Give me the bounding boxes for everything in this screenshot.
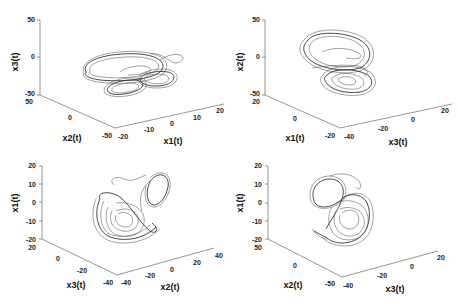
x-axis-label: x1(t) [163,136,182,146]
depth-tick: 0 [68,114,72,121]
x-tick: 20 [441,107,449,114]
z-axis-label: x3(t) [10,52,20,71]
depth-tick: 0 [56,255,60,262]
x-tick: 0 [410,263,414,270]
depth-axis-label: x1(t) [285,133,304,143]
plot-x1-x2-x3: 50 0 -50 50 0 -50 -20 -10 0 10 20 x3(t) … [0,0,230,151]
z-tick: 0 [258,199,262,206]
x-axis-label: x2(t) [160,282,179,292]
plot-canvas: 20 10 0 -10 -20 50 0 -50 -40 -20 0 20 x1… [230,151,460,302]
z-tick: 0 [32,199,36,206]
axes [262,20,452,128]
plot-x2-x3-x1: 20 10 0 -10 -20 20 0 -20 -40 -40 -20 0 2… [0,151,230,302]
trajectory [300,30,376,95]
depth-tick: -50 [325,280,335,287]
x-tick: 0 [170,266,174,273]
z-tick: 10 [28,181,36,188]
z-tick: 10 [254,181,262,188]
x-axis-label: x3(t) [388,137,407,147]
z-tick: 0 [31,53,35,60]
x-tick: 20 [437,254,445,261]
z-tick: -20 [252,236,262,243]
x-axis-label: x3(t) [385,284,404,294]
plot-canvas: 20 10 0 -10 -20 20 0 -20 -40 -40 -20 0 2… [0,151,230,302]
axes [37,20,224,128]
x-tick: 40 [215,252,223,259]
depth-tick: 20 [252,98,260,105]
plot-x3-x1-x2: 50 0 -50 20 0 -20 -40 -20 0 20 x2(t) x1(… [230,0,460,151]
z-axis-label: x1(t) [10,193,20,212]
x-tick: 10 [193,114,201,121]
x-tick: -20 [145,272,155,279]
x-tick: -40 [344,133,354,140]
depth-tick: -20 [325,132,335,139]
axes [265,166,438,277]
x-tick: -20 [377,272,387,279]
trajectory [93,173,170,243]
x-tick: 20 [216,107,224,114]
plot-canvas: 50 0 -50 20 0 -20 -40 -20 0 20 x2(t) x1(… [230,0,460,151]
x-tick: 20 [193,259,201,266]
x-tick: -10 [144,126,154,133]
x-tick: -20 [118,133,128,140]
x-tick: 0 [411,116,415,123]
z-tick: -20 [26,236,36,243]
z-tick: -10 [26,218,36,225]
depth-tick: 20 [28,244,36,251]
plot-x3-x2-x1: 20 10 0 -10 -20 50 0 -50 -40 -20 0 20 x1… [230,151,460,302]
depth-tick: -50 [102,132,112,139]
trajectory [310,174,373,246]
x-tick: -40 [121,279,131,286]
depth-tick: -40 [103,279,113,286]
x-tick: 0 [170,120,174,127]
trajectory [83,51,183,96]
depth-tick: 0 [293,262,297,269]
z-tick: -10 [252,218,262,225]
x-tick: -20 [378,125,388,132]
depth-axis-label: x2(t) [62,133,81,143]
plot-canvas: 50 0 -50 50 0 -50 -20 -10 0 10 20 x3(t) … [0,0,230,151]
z-tick: 20 [254,162,262,169]
z-tick: 0 [256,53,260,60]
depth-tick: 0 [293,115,297,122]
z-tick: -50 [25,90,35,97]
depth-tick: -20 [77,267,87,274]
z-axis-label: x2(t) [235,52,245,71]
z-tick: 50 [27,16,35,23]
z-tick: -50 [250,90,260,97]
depth-tick: 50 [254,244,262,251]
depth-tick: 50 [25,98,33,105]
axes [39,166,214,275]
z-axis-label: x1(t) [235,193,245,212]
depth-axis-label: x2(t) [283,280,302,290]
depth-axis-label: x3(t) [66,280,85,290]
z-tick: 50 [252,16,260,23]
z-tick: 20 [28,162,36,169]
x-tick: -40 [343,282,353,289]
